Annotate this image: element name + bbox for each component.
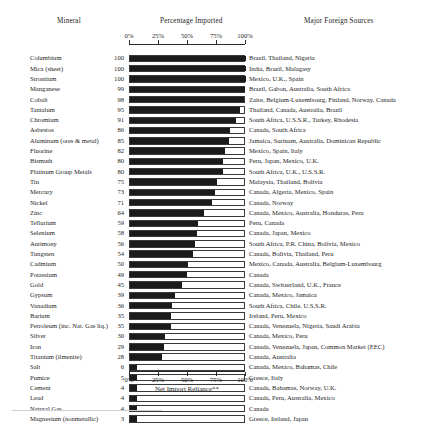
chart-row: Mica (sheet)100India, Brazil, Malagasy [0,64,443,74]
foreign-sources-label: Thailand, Canada, Australia, Brazil [249,106,342,113]
bar-fill [130,262,188,267]
percentage-value: 30 [104,332,124,339]
axis-tick [158,40,159,44]
axis-tick-label: 100% [237,32,252,39]
mineral-label: Iron [30,343,41,350]
axis-tick-label: 0% [125,32,134,39]
chart-row: Titanium (ilmenite)28Canada, Australia [0,353,443,363]
percentage-value: 100 [104,54,124,61]
percentage-value: 100 [104,75,124,82]
foreign-sources-label: Greece, Ireland, Japan [249,415,308,422]
mineral-label: Potassium [30,271,57,278]
bar-fill [130,365,137,370]
axis-tick [245,40,246,44]
foreign-sources-label: India, Brazil, Malagasy [249,65,311,72]
bar-track [129,75,245,82]
foreign-sources-label: Mexico, Spain, Italy [249,147,303,154]
chart-row: Cobalt98Zaire, Belgium-Luxembourg, Finla… [0,95,443,105]
bar-fill [130,396,137,401]
foreign-sources-label: Canada, Mexico, Bahamas, Chile [249,363,337,370]
mineral-label: Vanadium [30,302,57,309]
foreign-sources-label: Zaire, Belgium-Luxembourg, Finland, Norw… [249,96,396,103]
bar-track [129,281,245,288]
page-crop-artifact [12,410,162,411]
foreign-sources-label: Peru, Canada [249,219,284,226]
column-header-mineral: Mineral [57,17,81,25]
percentage-value: 29 [104,343,124,350]
chart-row: Vanadium36South Africa, Chile, U.S.S.R. [0,301,443,311]
mineral-label: Fluorine [30,147,52,154]
bar-fill [130,87,245,92]
bar-fill [130,210,204,215]
mineral-label: Antimony [30,240,57,247]
axis-bottom: 0%25%50%75%100% [129,371,245,383]
percentage-value: 80 [104,157,124,164]
percentage-value: 91 [104,116,124,123]
chart-row: Gold45Canada, Switzerland, U.K., France [0,281,443,291]
bar-fill [130,190,215,195]
mineral-label: Lead [30,394,43,401]
bar-fill [130,303,172,308]
foreign-sources-label: Canada, Algeria, Mexico, Spain [249,188,333,195]
bar-fill [130,200,212,205]
axis-tick-label: 100% [237,376,252,383]
mineral-label: Tin [30,178,39,185]
mineral-label: Strontium [30,75,56,82]
bar-track [129,353,245,360]
chart-row: Aluminum (ores & metal)85Jamaica, Surina… [0,136,443,146]
chart-row: Tantalum95Thailand, Canada, Australia, B… [0,106,443,116]
mineral-label: Pumice [30,374,50,381]
foreign-sources-label: Brazil, Thailand, Nigeria [249,54,315,61]
bar-track [129,415,245,422]
mineral-label: Platinum Group Metals [30,168,92,175]
chart-row: Chromium91South Africa, U.S.S.R., Turkey… [0,116,443,126]
axis-caption: Net Import Reliance** [129,385,245,393]
bar-track [129,405,245,412]
axis-tick-label: 0% [125,376,134,383]
bar-fill [130,251,193,256]
mineral-label: Titanium (ilmenite) [30,353,82,360]
mineral-label: Mercury [30,188,53,195]
mineral-label: Cadmium [30,260,56,267]
bar-fill [130,169,223,174]
bar-track [129,127,245,134]
mineral-label: Asbestos [30,126,54,133]
foreign-sources-label: Canada, Switzerland, U.K., France [249,281,341,288]
bar-fill [130,272,187,277]
mineral-label: Gold [30,281,43,288]
bar-fill [130,66,246,71]
percentage-value: 71 [104,199,124,206]
bar-track [129,96,245,103]
bar-track [129,395,245,402]
bar-fill [130,107,240,112]
bar-fill [130,416,137,421]
bar-fill [130,76,246,81]
percentage-value: 5 [104,374,124,381]
mineral-label: Columbium [30,54,62,61]
percentage-value: 36 [104,302,124,309]
bar-track [129,292,245,299]
axis-tick-label: 50% [181,376,193,383]
chart-row: Magnesium (nonmetallic)3Greece, Ireland,… [0,415,443,425]
axis-tick [129,40,130,44]
bar-fill [130,354,162,359]
bar-fill [130,118,236,123]
axis-top-line [129,44,245,45]
bar-fill [130,179,217,184]
foreign-sources-label: South Africa, U.S.S.R., Turkey, Rhodesia [249,116,358,123]
percentage-value: 75 [104,178,124,185]
column-header-percentage-imported: Percentage Imported [160,17,223,25]
percentage-value: 64 [104,209,124,216]
percentage-value: 82 [104,147,124,154]
mineral-label: Cement [30,384,51,391]
percentage-value: 49 [104,271,124,278]
chart-row: Zinc64Canada, Mexico, Australia, Hondura… [0,209,443,219]
bar-track [129,199,245,206]
chart-row: Bismuth80Peru, Japan, Mexico, U.K. [0,157,443,167]
chart-row: Petroleum (inc. Nat. Gas liq.)35Canada, … [0,322,443,332]
foreign-sources-label: Canada, Mexico, Jamaica [249,291,317,298]
chart-row: Tellurium59Peru, Canada [0,219,443,229]
mineral-label: Tungsten [30,250,54,257]
bar-fill [130,148,225,153]
